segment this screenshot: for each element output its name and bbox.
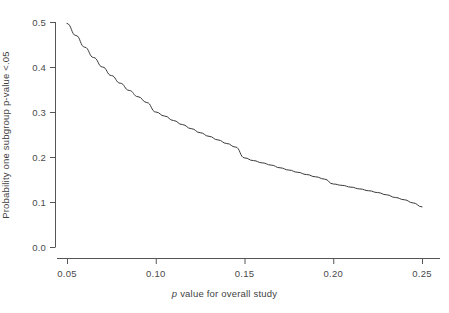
- y-axis-tick-label: 0.1: [16, 197, 46, 208]
- y-axis-tick-label: 0.4: [16, 62, 46, 73]
- x-axis-tick-label: 0.05: [57, 268, 76, 279]
- x-axis-tick-label: 0.15: [235, 268, 254, 279]
- y-axis-tick-label: 0.3: [16, 107, 46, 118]
- chart-plot-area: [0, 0, 449, 313]
- x-axis-title-rest: value for overall study: [177, 288, 277, 299]
- x-axis-tick-label: 0.10: [146, 268, 165, 279]
- x-axis-tick-label: 0.25: [412, 268, 431, 279]
- x-axis-title: p value for overall study: [0, 288, 449, 299]
- data-series-line: [67, 23, 422, 207]
- y-axis-title: Probability one subgroup p-value <.05: [0, 51, 11, 219]
- y-axis-tick-label: 0.2: [16, 152, 46, 163]
- chart-figure: 0.00.10.20.30.40.5 0.050.100.150.200.25 …: [0, 0, 449, 313]
- y-axis-tick-label: 0.0: [16, 242, 46, 253]
- y-axis-ticks: [50, 23, 56, 248]
- x-axis-tick-label: 0.20: [324, 268, 343, 279]
- y-axis-tick-label: 0.5: [16, 17, 46, 28]
- x-axis-ticks: [68, 259, 423, 265]
